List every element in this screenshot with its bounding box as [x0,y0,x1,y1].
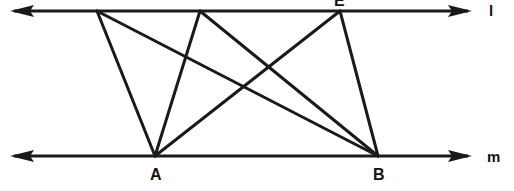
vertex-label-a: A [150,167,162,183]
triangle-segments [97,11,378,156]
vertex-label-b: B [373,167,385,183]
segment-p1-a [97,11,155,156]
segment-p1-b [97,11,378,156]
line-label-m: m [487,149,501,164]
line-label-l: l [489,3,493,18]
segment-p3-b [340,11,378,156]
vertex-label-e: E [334,0,345,9]
segment-p2-a [155,11,200,156]
line-m [10,150,472,162]
geometry-canvas [0,0,514,191]
line-l [10,5,472,17]
segment-p2-b [200,11,378,156]
geometry-figure: E A B l m [0,0,514,191]
segment-p3-a [155,11,340,156]
